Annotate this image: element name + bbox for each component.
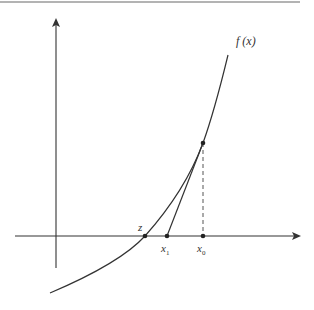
root-point <box>143 234 148 239</box>
x0-label: x0 <box>196 242 206 257</box>
tangent-line <box>167 143 203 236</box>
root-label: z <box>137 221 143 233</box>
x0-label-subscript: 0 <box>202 249 206 257</box>
tangent-point <box>201 141 206 146</box>
function-curve <box>50 55 228 293</box>
x1-label: x1 <box>160 242 170 257</box>
newton-method-diagram: f (x) z x1 x0 <box>0 0 314 310</box>
x0-point <box>201 234 206 239</box>
y-axis <box>52 18 60 268</box>
x-axis <box>15 232 301 240</box>
x1-label-subscript: 1 <box>166 249 170 257</box>
function-label: f (x) <box>236 34 256 48</box>
x1-point <box>165 234 170 239</box>
